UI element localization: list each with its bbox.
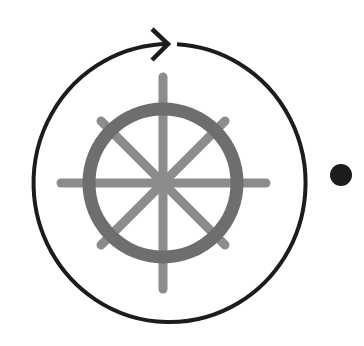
ship-wheel-icon [61, 77, 266, 289]
diagram-canvas [0, 0, 364, 346]
dot-icon [330, 164, 352, 186]
